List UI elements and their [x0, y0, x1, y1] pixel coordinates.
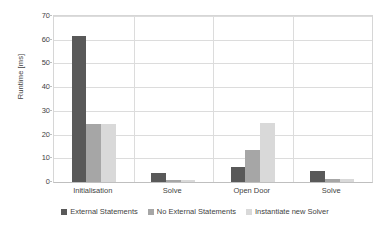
bar	[72, 36, 87, 182]
bar	[181, 180, 196, 182]
legend-label: No External Statements	[157, 207, 236, 216]
x-axis-tick-label: Solve	[133, 186, 213, 195]
legend-label: External Statements	[70, 207, 138, 216]
x-axis-tick-labels: InitialisationSolveOpen DoorSolve	[53, 186, 373, 200]
y-axis-tick-label: 60	[4, 34, 50, 43]
y-axis-tick-label: 20	[4, 129, 50, 138]
bar	[231, 167, 246, 182]
bar	[260, 123, 275, 182]
y-axis-tick-label: 0	[4, 177, 50, 186]
y-axis-tick-label: 40	[4, 82, 50, 91]
bar-group	[134, 16, 214, 182]
x-axis-tick-label: Open Door	[212, 186, 292, 195]
bar	[151, 173, 166, 182]
y-axis-tick-labels: 010203040506070	[0, 15, 50, 183]
y-axis-tick-mark	[49, 39, 52, 40]
y-axis-tick-label: 50	[4, 58, 50, 67]
legend-swatch-icon	[148, 209, 154, 215]
bar	[86, 124, 101, 182]
bar	[245, 150, 260, 182]
y-axis-tick-mark	[49, 110, 52, 111]
x-axis-tick-label: Solve	[292, 186, 372, 195]
bar-chart: Runtime [ms] 010203040506070 Initialisat…	[0, 0, 390, 227]
legend-label: Instantiate new Solver	[255, 207, 329, 216]
bar	[310, 171, 325, 182]
bar-group	[54, 16, 134, 182]
y-axis-tick-mark	[49, 157, 52, 158]
bar	[101, 124, 116, 182]
legend-item[interactable]: No External Statements	[148, 207, 236, 216]
y-axis-tick-label: 10	[4, 153, 50, 162]
legend-item[interactable]: External Statements	[61, 207, 138, 216]
bar	[325, 179, 340, 182]
legend-item[interactable]: Instantiate new Solver	[246, 207, 329, 216]
y-axis-tick-mark	[49, 86, 52, 87]
y-axis-tick-label: 70	[4, 11, 50, 20]
bar-group	[293, 16, 373, 182]
x-axis-tick-label: Initialisation	[53, 186, 133, 195]
plot-area	[53, 15, 373, 183]
bar	[340, 179, 355, 182]
y-axis-tick-mark	[49, 62, 52, 63]
chart-legend: External StatementsNo External Statement…	[0, 207, 390, 216]
bar	[166, 180, 181, 182]
y-axis-tick-mark	[49, 15, 52, 16]
legend-swatch-icon	[246, 209, 252, 215]
bar-group	[213, 16, 293, 182]
legend-swatch-icon	[61, 209, 67, 215]
y-axis-tick-label: 30	[4, 105, 50, 114]
y-axis-tick-mark	[49, 134, 52, 135]
y-axis-tick-mark	[49, 181, 52, 182]
